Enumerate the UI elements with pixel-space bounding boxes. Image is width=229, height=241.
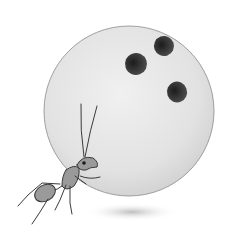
illustration: Ant carrying a bowling ball	[0, 0, 229, 241]
ball-shadow	[86, 203, 178, 221]
